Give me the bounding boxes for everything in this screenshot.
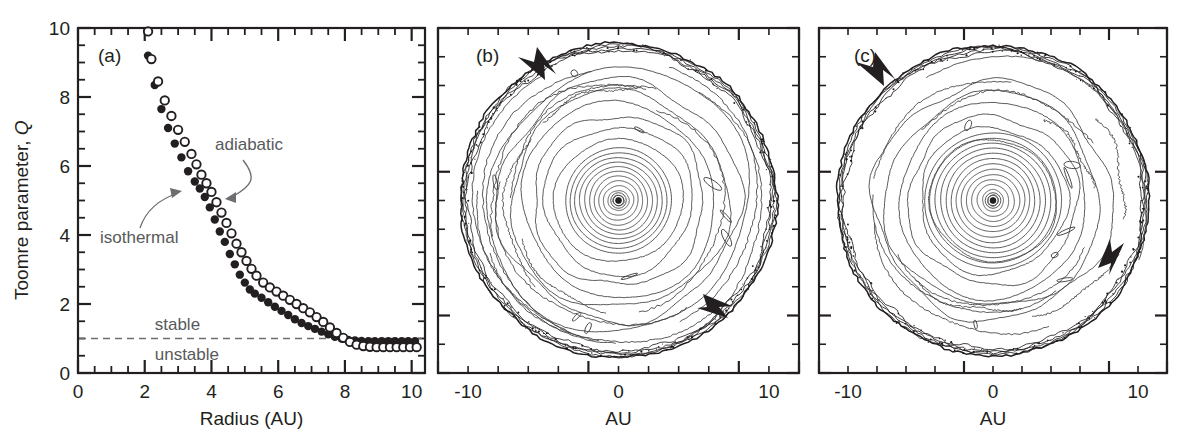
rim-speckle — [461, 220, 463, 222]
panel-c-xaxis-title: AU — [980, 408, 1006, 429]
panel-a-xtick-labels: 0246810 — [73, 381, 423, 402]
rim-speckle — [755, 269, 757, 271]
rim-speckle — [574, 55, 576, 57]
rim-speckle — [1148, 190, 1149, 191]
panel-c-label: (c) — [854, 45, 876, 66]
rim-speckle — [861, 125, 862, 126]
rim-speckle — [1020, 51, 1022, 53]
rim-speckle — [770, 166, 772, 168]
rim-speckle — [849, 156, 851, 158]
rim-speckle — [520, 78, 522, 80]
rim-speckle — [947, 60, 948, 61]
rim-speckle — [910, 325, 911, 326]
rim-speckle — [680, 60, 682, 62]
panel-a-svg: Toomre parameter, Q 0246810 0246810 Radi… — [0, 0, 432, 441]
rim-speckle — [535, 328, 536, 329]
rim-speckle — [461, 197, 463, 199]
rim-speckle — [507, 302, 509, 304]
rim-speckle — [675, 341, 676, 342]
disk-xtick-label: 0 — [613, 381, 624, 402]
rim-speckle — [484, 277, 486, 279]
rim-speckle — [479, 269, 481, 271]
rim-speckle — [770, 159, 771, 160]
rim-speckle — [773, 225, 775, 227]
rim-speckle — [513, 316, 515, 318]
rim-speckle — [733, 94, 734, 95]
rim-speckle — [1118, 279, 1119, 280]
rim-speckle — [898, 81, 900, 83]
adiabatic-point — [232, 239, 240, 247]
rim-speckle — [998, 44, 999, 45]
rim-speckle — [1134, 249, 1135, 250]
rim-speckle — [952, 343, 953, 344]
rim-speckle — [633, 49, 635, 51]
rim-speckle — [1092, 311, 1093, 312]
isothermal-point — [226, 250, 234, 258]
disk-xtick-label: -10 — [834, 381, 861, 402]
rim-speckle — [622, 349, 623, 350]
rim-speckle — [983, 349, 984, 350]
rim-speckle — [472, 244, 473, 245]
rim-speckle — [991, 47, 993, 49]
rim-speckle — [741, 107, 742, 108]
rim-speckle — [470, 151, 472, 153]
rim-speckle — [878, 299, 879, 300]
rim-speckle — [860, 126, 862, 128]
panel-b-central-star-marker — [615, 197, 621, 203]
rim-speckle — [1106, 293, 1108, 295]
rim-speckle — [471, 172, 473, 174]
rim-speckle — [464, 224, 466, 226]
rim-speckle — [591, 352, 593, 354]
rim-speckle — [617, 47, 619, 49]
rim-speckle — [467, 165, 469, 167]
rim-speckle — [1104, 91, 1106, 93]
rim-speckle — [928, 342, 929, 343]
rim-speckle — [1028, 54, 1029, 55]
rim-speckle — [855, 125, 857, 127]
rim-speckle — [760, 269, 761, 270]
rim-speckle — [494, 288, 496, 290]
rim-speckle — [511, 306, 512, 307]
rim-speckle — [868, 111, 869, 112]
rim-speckle — [992, 51, 994, 53]
rim-speckle — [749, 125, 750, 126]
rim-speckle — [1001, 50, 1003, 52]
rim-speckle — [1070, 69, 1071, 70]
disk-xtick-label: 10 — [1127, 381, 1148, 402]
rim-speckle — [986, 352, 988, 354]
rim-speckle — [860, 128, 862, 130]
rim-speckle — [1146, 187, 1148, 189]
rim-speckle — [1139, 178, 1140, 179]
rim-speckle — [923, 61, 924, 62]
rim-speckle — [628, 350, 629, 351]
rim-speckle — [868, 294, 870, 296]
rim-speckle — [1021, 352, 1022, 353]
rim-speckle — [508, 311, 509, 312]
rim-speckle — [482, 126, 483, 127]
rim-speckle — [1012, 49, 1013, 50]
rim-speckle — [845, 228, 846, 229]
rim-speckle — [516, 80, 518, 82]
rim-speckle — [913, 330, 915, 332]
isothermal-point — [211, 215, 219, 223]
rim-speckle — [1104, 300, 1106, 302]
panel-a-xtick-label: 8 — [340, 381, 351, 402]
panel-c-xtick-labels: -10010 — [834, 381, 1148, 402]
rim-speckle — [885, 98, 886, 99]
rim-speckle — [769, 184, 770, 185]
rim-speckle — [914, 70, 916, 72]
rim-speckle — [471, 251, 473, 253]
rim-speckle — [1137, 237, 1139, 239]
rim-speckle — [742, 109, 744, 111]
rim-speckle — [1146, 185, 1148, 187]
rim-speckle — [965, 54, 967, 56]
rim-speckle — [1022, 52, 1024, 54]
rim-speckle — [765, 247, 766, 248]
panel-a-xtick-label: 0 — [73, 381, 84, 402]
rim-speckle — [853, 255, 855, 257]
rim-speckle — [477, 145, 479, 147]
rim-speckle — [771, 232, 773, 234]
rim-speckle — [1064, 337, 1066, 339]
rim-speckle — [475, 133, 477, 135]
rim-speckle — [941, 342, 943, 344]
